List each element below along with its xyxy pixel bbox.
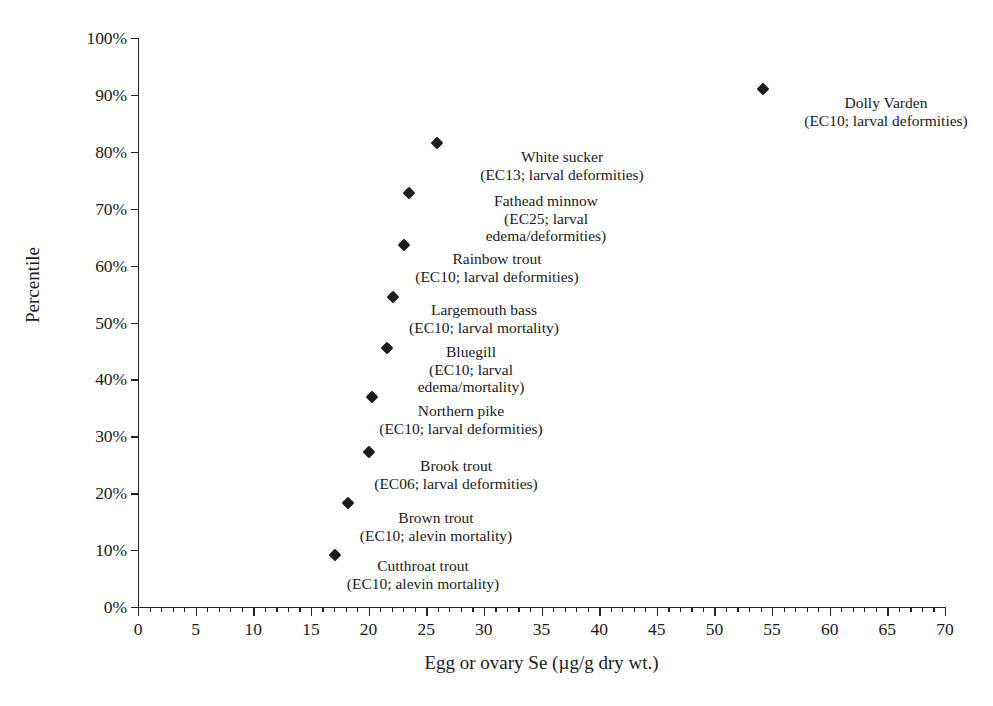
- point-label-species: Bluegill: [418, 343, 525, 361]
- x-tick-label: 40: [590, 619, 608, 640]
- x-tick-mark-major: [196, 607, 197, 616]
- y-tick-mark: [131, 493, 138, 494]
- data-point-marker: [403, 186, 416, 199]
- x-tick-mark-minor: [922, 607, 923, 612]
- x-tick-label: 60: [821, 619, 839, 640]
- x-tick-label: 15: [302, 619, 320, 640]
- x-tick-mark-minor: [518, 607, 519, 612]
- x-tick-mark-major: [657, 607, 658, 616]
- y-tick-mark: [131, 38, 138, 39]
- x-tick-mark-minor: [495, 607, 496, 612]
- point-label: Rainbow trout(EC10; larval deformities): [415, 250, 579, 285]
- x-tick-mark-minor: [207, 607, 208, 612]
- point-label-species: Cutthroat trout: [347, 557, 499, 575]
- x-axis-title: Egg or ovary Se (µg/g dry wt.): [138, 652, 945, 674]
- x-tick-mark-minor: [265, 607, 266, 612]
- x-tick-mark-major: [138, 607, 139, 616]
- y-tick-label: 30%: [95, 426, 127, 447]
- point-label-detail: (EC10; larval mortality): [409, 319, 559, 337]
- x-tick-mark-major: [253, 607, 254, 616]
- x-tick-mark-minor: [622, 607, 623, 612]
- x-tick-mark-minor: [219, 607, 220, 612]
- point-label-species: White sucker: [480, 148, 644, 166]
- x-tick-mark-minor: [645, 607, 646, 612]
- x-tick-mark-minor: [933, 607, 934, 612]
- y-tick-label: 10%: [95, 540, 127, 561]
- point-label-detail: (EC10; larval: [418, 361, 525, 379]
- data-point-marker: [362, 446, 375, 459]
- y-tick-label: 50%: [95, 312, 127, 333]
- y-tick-mark: [131, 266, 138, 267]
- y-tick-label: 90%: [95, 84, 127, 105]
- y-tick-label: 40%: [95, 369, 127, 390]
- point-label-detail: (EC10; larval deformities): [379, 420, 543, 438]
- x-tick-label: 30: [475, 619, 493, 640]
- point-label-species: Dolly Varden: [804, 94, 968, 112]
- y-tick-label: 100%: [87, 28, 127, 49]
- x-tick-mark-minor: [322, 607, 323, 612]
- x-tick-mark-minor: [853, 607, 854, 612]
- x-tick-mark-major: [426, 607, 427, 616]
- x-tick-mark-minor: [357, 607, 358, 612]
- x-tick-label: 65: [879, 619, 897, 640]
- point-label: White sucker(EC13; larval deformities): [480, 148, 644, 183]
- x-tick-mark-minor: [749, 607, 750, 612]
- x-tick-mark-major: [599, 607, 600, 616]
- x-tick-mark-minor: [841, 607, 842, 612]
- x-tick-mark-minor: [565, 607, 566, 612]
- y-tick-label: 0%: [104, 597, 127, 618]
- x-tick-label: 20: [360, 619, 378, 640]
- y-tick-mark: [131, 95, 138, 96]
- point-label: Brown trout(EC10; alevin mortality): [360, 509, 512, 544]
- y-tick-mark: [131, 323, 138, 324]
- x-tick-mark-minor: [276, 607, 277, 612]
- x-tick-mark-minor: [173, 607, 174, 612]
- point-label-species: Northern pike: [379, 402, 543, 420]
- point-label-detail: (EC25; larval: [486, 210, 607, 228]
- x-tick-label: 35: [533, 619, 551, 640]
- x-tick-mark-major: [772, 607, 773, 616]
- point-label-detail: edema/deformities): [486, 227, 607, 245]
- x-tick-label: 45: [648, 619, 666, 640]
- x-tick-mark-minor: [807, 607, 808, 612]
- point-label: Fathead minnow(EC25; larvaledema/deformi…: [486, 192, 607, 245]
- data-point-marker: [386, 291, 399, 304]
- x-tick-mark-minor: [910, 607, 911, 612]
- point-label: Dolly Varden(EC10; larval deformities): [804, 94, 968, 129]
- x-tick-mark-minor: [299, 607, 300, 612]
- x-tick-mark-major: [714, 607, 715, 616]
- point-label-detail: edema/mortality): [418, 378, 525, 396]
- x-tick-mark-major: [369, 607, 370, 616]
- point-label-species: Largemouth bass: [409, 301, 559, 319]
- point-label-species: Brook trout: [374, 457, 538, 475]
- point-label-detail: (EC10; alevin mortality): [347, 575, 499, 593]
- data-point-marker: [381, 342, 394, 355]
- x-tick-label: 0: [134, 619, 143, 640]
- x-tick-mark-minor: [876, 607, 877, 612]
- x-tick-mark-minor: [403, 607, 404, 612]
- x-tick-mark-minor: [288, 607, 289, 612]
- y-tick-mark: [131, 379, 138, 380]
- x-tick-mark-major: [945, 607, 946, 616]
- data-point-marker: [329, 549, 342, 562]
- x-tick-mark-minor: [784, 607, 785, 612]
- y-axis-title: Percentile: [22, 247, 44, 323]
- x-tick-mark-minor: [576, 607, 577, 612]
- x-tick-mark-minor: [161, 607, 162, 612]
- y-tick-mark: [131, 550, 138, 551]
- y-tick-label: 60%: [95, 255, 127, 276]
- chart-figure: 0%10%20%30%40%50%60%70%80%90%100% 051015…: [0, 0, 993, 706]
- data-point-marker: [430, 137, 443, 150]
- data-point-marker: [341, 496, 354, 509]
- data-point-marker: [398, 239, 411, 252]
- x-tick-mark-minor: [818, 607, 819, 612]
- x-tick-mark-minor: [334, 607, 335, 612]
- point-label: Brook trout(EC06; larval deformities): [374, 457, 538, 492]
- x-tick-mark-major: [484, 607, 485, 616]
- x-tick-mark-minor: [726, 607, 727, 612]
- x-tick-label: 10: [245, 619, 263, 640]
- y-tick-mark: [131, 436, 138, 437]
- x-tick-label: 55: [763, 619, 781, 640]
- x-tick-mark-minor: [864, 607, 865, 612]
- x-tick-mark-minor: [184, 607, 185, 612]
